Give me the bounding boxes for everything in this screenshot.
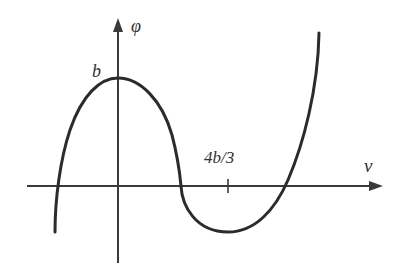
tick-label: 4b/3 (204, 148, 234, 167)
phi-v-diagram: φ b 4b/3 v (0, 0, 399, 272)
v-axis-arrow-icon (369, 181, 383, 191)
phi-axis (113, 18, 123, 263)
phi-axis-label: φ (131, 16, 141, 36)
phi-axis-arrow-icon (113, 18, 123, 32)
plot-canvas: φ b 4b/3 v (0, 0, 399, 272)
peak-label: b (92, 61, 101, 81)
v-axis-label: v (364, 155, 373, 176)
v-axis (27, 181, 383, 191)
